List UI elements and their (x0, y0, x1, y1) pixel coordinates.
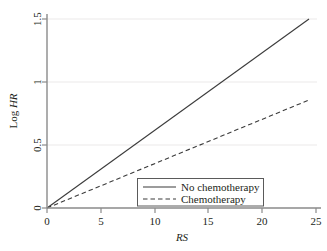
x-tick-label-20: 20 (257, 215, 269, 227)
y-axis-title: Log HR (7, 93, 19, 128)
chart-figure: 1.5 1 0.5 0 0 5 10 15 20 25 RS Log HR (0, 0, 327, 251)
chart-legend[interactable]: No chemotherapy Chemotherapy (138, 179, 264, 207)
x-axis-ticks (47, 208, 316, 213)
y-tick-label-1.5: 1.5 (31, 12, 43, 26)
legend-label-no-chemotherapy[interactable]: No chemotherapy (181, 181, 260, 193)
x-tick-label-5: 5 (98, 215, 104, 227)
y-axis-title-roman: Log (7, 108, 19, 128)
y-axis-tick-labels: 1.5 1 0.5 0 (31, 12, 43, 211)
x-axis-title: RS (175, 231, 189, 243)
x-axis-tick-labels: 0 5 10 15 20 25 (44, 215, 322, 227)
log-hr-vs-rs-line-chart: 1.5 1 0.5 0 0 5 10 15 20 25 RS Log HR (0, 0, 327, 251)
y-axis-title-italic: HR (7, 93, 19, 109)
x-tick-label-0: 0 (44, 215, 50, 227)
svg-text:Log HR: Log HR (7, 93, 19, 128)
y-tick-label-0: 0 (31, 205, 43, 211)
y-axis-ticks (42, 19, 47, 208)
legend-label-chemotherapy[interactable]: Chemotherapy (181, 193, 246, 205)
x-tick-label-25: 25 (311, 215, 323, 227)
x-tick-label-15: 15 (203, 215, 215, 227)
y-tick-label-0.5: 0.5 (31, 138, 43, 152)
x-tick-label-10: 10 (150, 215, 162, 227)
y-tick-label-1: 1 (31, 79, 43, 85)
